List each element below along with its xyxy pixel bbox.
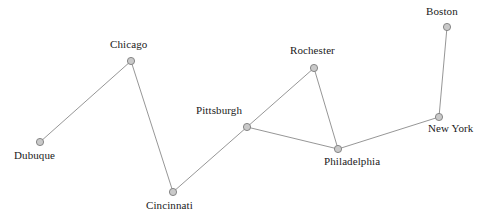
node-label-philadelphia: Philadelphia <box>324 155 380 167</box>
graph-edge-chicago-cincinnati <box>131 61 173 192</box>
node-label-newyork: New York <box>428 122 473 134</box>
node-layer <box>36 23 450 195</box>
node-label-cincinnati: Cincinnati <box>146 199 193 211</box>
graph-node-chicago[interactable] <box>127 57 134 64</box>
node-label-chicago: Chicago <box>110 38 147 50</box>
graph-edge-cincinnati-pittsburgh <box>173 127 247 192</box>
graph-edge-pittsburgh-philadelphia <box>247 127 338 149</box>
graph-edge-philadelphia-newyork <box>338 117 439 149</box>
graph-node-cincinnati[interactable] <box>169 188 176 195</box>
graph-svg <box>0 0 492 220</box>
edge-layer <box>40 27 447 192</box>
node-label-dubuque: Dubuque <box>14 149 55 161</box>
node-label-boston: Boston <box>426 5 458 17</box>
graph-node-rochester[interactable] <box>310 64 317 71</box>
graph-node-dubuque[interactable] <box>36 138 43 145</box>
graph-canvas: DubuqueChicagoCincinnatiPittsburghRoches… <box>0 0 492 220</box>
node-label-pittsburgh: Pittsburgh <box>196 104 242 116</box>
graph-node-philadelphia[interactable] <box>334 145 341 152</box>
graph-node-pittsburgh[interactable] <box>243 123 250 130</box>
graph-edge-newyork-boston <box>439 27 447 117</box>
graph-node-newyork[interactable] <box>435 113 442 120</box>
graph-node-boston[interactable] <box>443 23 450 30</box>
node-label-rochester: Rochester <box>290 44 335 56</box>
graph-edge-dubuque-chicago <box>40 61 131 142</box>
graph-edge-rochester-philadelphia <box>314 68 338 149</box>
graph-edge-pittsburgh-rochester <box>247 68 314 127</box>
